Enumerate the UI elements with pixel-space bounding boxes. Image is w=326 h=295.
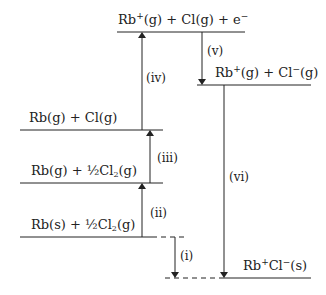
- step-label-iii: (iii): [157, 152, 178, 164]
- energy-level-diagram: [0, 0, 326, 295]
- level-label-elements: Rb(s) + ½Cl2(g): [31, 218, 135, 231]
- step-label-i: (i): [180, 250, 193, 262]
- level-label-solid: Rb+Cl−(s): [243, 259, 307, 272]
- step-label-iv: (iv): [146, 72, 166, 84]
- level-label-top: Rb+(g) + Cl(g) + e−: [118, 13, 248, 26]
- level-label-ions: Rb+(g) + Cl−(g): [215, 66, 318, 79]
- step-label-vi: (vi): [229, 171, 249, 183]
- level-label-atoms: Rb(g) + Cl(g): [29, 111, 117, 124]
- level-label-rbgas: Rb(g) + ½Cl2(g): [31, 164, 137, 177]
- step-label-v: (v): [207, 45, 223, 57]
- step-label-ii: (ii): [150, 207, 167, 219]
